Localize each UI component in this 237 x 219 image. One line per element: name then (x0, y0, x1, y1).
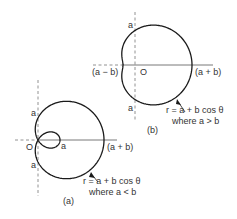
figure-a-top-a-label: a (31, 108, 36, 118)
figure-a-condition: where a < b (88, 187, 136, 197)
figure-a-bottom-a-label: a (31, 160, 36, 170)
figure-b-equation: r = a + b cos θ (166, 105, 224, 115)
figure-b-condition: where a > b (171, 116, 219, 126)
figure-b-right-label: (a + b) (195, 67, 221, 77)
limacon-diagram: a a (a − b) O (a + b) r = a + b cos θ wh… (0, 0, 237, 219)
figure-a-origin-label: O (26, 142, 33, 152)
figure-a: a a O a (a + b) r = a + b cos θ where a … (15, 80, 141, 206)
figure-b-origin-label: O (140, 67, 147, 77)
figure-a-caption: (a) (63, 196, 74, 206)
figure-b-bottom-a-label: a (128, 103, 133, 113)
figure-a-equation: r = a + b cos θ (83, 176, 141, 186)
figure-a-inner-a-label: a (61, 141, 66, 151)
figure-b-top-a-label: a (128, 20, 133, 30)
figure-b-caption: (b) (147, 125, 158, 135)
figure-b-left-label: (a − b) (92, 67, 118, 77)
figure-a-right-label: (a + b) (107, 142, 133, 152)
figure-b: a a (a − b) O (a + b) r = a + b cos θ wh… (92, 12, 224, 135)
